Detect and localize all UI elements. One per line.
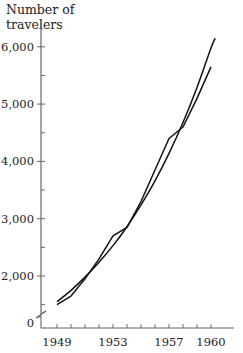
fit-curve-line — [57, 38, 215, 302]
y-tick-label: 4,000 — [1, 154, 34, 168]
x-tick-label: 1957 — [154, 335, 183, 349]
line-chart: 02,0003,0004,0005,0006,00019491953195719… — [0, 0, 243, 353]
x-axis: 1949195319571960 — [42, 324, 234, 349]
y-tick-label: 5,000 — [1, 97, 34, 111]
x-tick-label: 1953 — [98, 335, 127, 349]
x-tick-label: 1949 — [42, 335, 71, 349]
y-axis: 02,0003,0004,0005,0006,000 — [1, 20, 46, 330]
x-tick-label: 1960 — [196, 335, 225, 349]
y-tick-label: 2,000 — [1, 269, 34, 283]
y-tick-label: 6,000 — [1, 40, 34, 54]
y-tick-label: 3,000 — [1, 212, 34, 226]
axis-break-icon — [36, 311, 46, 328]
actual-data-line — [57, 67, 211, 305]
y-tick-label: 0 — [27, 316, 34, 330]
